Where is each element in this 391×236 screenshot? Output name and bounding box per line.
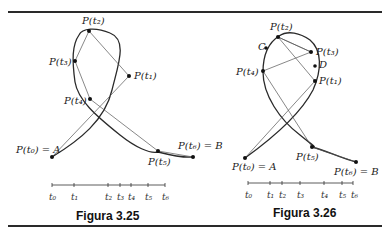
- tick-t4: t₄: [321, 190, 329, 200]
- label-p5: P(t₅): [147, 156, 171, 167]
- tick-t6: t₆: [162, 192, 170, 202]
- label-p2: P(t₂): [269, 21, 293, 32]
- parameter-axis: [248, 181, 353, 185]
- tick-t3: t₃: [117, 192, 125, 202]
- chord-polyline: [245, 37, 356, 162]
- tick-t0: t₀: [245, 190, 253, 200]
- tick-t5: t₅: [339, 190, 347, 200]
- caption-3-25: Figura 3.25: [76, 209, 140, 223]
- figure-3-26: P(t₀) = A P(t₁) P(t₂) P(t₃) P(t₄) P(t₅) …: [231, 21, 379, 220]
- label-p1: P(t₁): [133, 70, 157, 81]
- parameter-axis: [52, 183, 165, 187]
- point-d: [313, 64, 317, 68]
- figures-canvas: P(t₀) = A P(t₁) P(t₂) P(t₃) P(t₄) P(t₅) …: [0, 0, 391, 236]
- label-p0: P(t₀) = A: [15, 144, 61, 155]
- label-p1: P(t₁): [318, 75, 342, 86]
- label-c: C: [258, 41, 266, 52]
- label-p6: P(t₆) = B: [333, 166, 379, 177]
- label-p5: P(t₅): [295, 151, 319, 162]
- tick-t1: t₁: [71, 192, 78, 202]
- label-p2: P(t₂): [81, 15, 105, 26]
- chord-extra: [278, 37, 311, 52]
- tick-t2: t₂: [279, 190, 287, 200]
- label-p4: P(t₄): [63, 95, 87, 106]
- tick-t1: t₁: [267, 190, 274, 200]
- label-d: D: [318, 59, 327, 70]
- figure-3-25: P(t₀) = A P(t₁) P(t₂) P(t₃) P(t₄) P(t₅) …: [15, 15, 223, 223]
- tick-t5: t₅: [145, 192, 153, 202]
- label-p3: P(t₃): [315, 46, 339, 57]
- tick-t6: t₆: [351, 190, 359, 200]
- tick-t3: t₃: [297, 190, 305, 200]
- tick-t2: t₂: [105, 192, 113, 202]
- label-p4: P(t₄): [235, 66, 259, 77]
- curve: [52, 29, 193, 157]
- caption-3-26: Figura 3.26: [273, 206, 337, 220]
- control-points: [243, 35, 358, 164]
- control-points: [50, 29, 195, 159]
- label-p6: P(t₆) = B: [177, 140, 223, 151]
- tick-t0: t₀: [49, 192, 57, 202]
- label-p0: P(t₀) = A: [231, 161, 277, 172]
- label-p3: P(t₃): [48, 56, 72, 67]
- tick-t4: t₄: [128, 192, 136, 202]
